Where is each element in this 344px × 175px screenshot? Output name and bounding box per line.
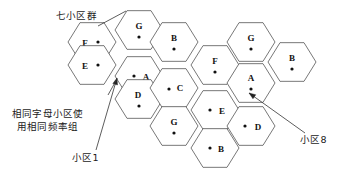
hex-cell-g[interactable]: G: [227, 23, 275, 62]
base-station-dot: [137, 104, 140, 107]
base-station-dot: [172, 131, 175, 134]
base-station-dot: [96, 63, 99, 66]
hex-cell-letter: C: [177, 83, 184, 93]
hexagon-cell-layer: FEGADBCGFEBGADB: [68, 11, 316, 168]
hex-cell-letter: E: [219, 106, 225, 116]
hex-cell-g[interactable]: G: [150, 107, 198, 146]
base-station-dot: [249, 47, 252, 50]
cell1-leader-line-a: [96, 78, 117, 150]
hex-cell-letter: G: [247, 33, 254, 43]
frequency-reuse-note: 相同字母小区使 用相同频率组: [12, 108, 83, 134]
base-station-dot: [208, 108, 211, 111]
cluster-annotation-label: 七小区群: [56, 10, 97, 23]
hex-cell-letter: B: [171, 33, 177, 43]
base-station-dot: [290, 67, 293, 70]
hex-cell-letter: A: [248, 73, 255, 83]
hexagon-grid-diagram: FEGADBCGFEBGADB: [0, 0, 344, 175]
base-station-dot: [172, 47, 175, 50]
hex-cell-letter: B: [289, 53, 295, 63]
base-station-dot: [243, 124, 246, 127]
cell-8-annotation-label: 小区8: [300, 134, 327, 147]
hex-cell-letter: G: [135, 21, 142, 31]
hex-cell-letter: F: [212, 56, 218, 66]
hex-cell-letter: D: [135, 90, 142, 100]
frequency-reuse-note-line1: 相同字母小区使: [12, 108, 83, 121]
frequency-reuse-note-line2: 用相同频率组: [12, 121, 83, 134]
hex-cell-letter: D: [255, 122, 262, 132]
hex-cell-b[interactable]: B: [268, 43, 316, 82]
base-station-dot: [96, 40, 99, 43]
base-station-dot: [132, 74, 135, 77]
base-station-dot: [167, 87, 170, 90]
base-station-dot: [208, 146, 211, 149]
cell-1-annotation-label: 小区1: [72, 152, 99, 165]
hex-cell-letter: E: [82, 61, 88, 71]
hex-cell-letter: G: [170, 117, 177, 127]
base-station-dot: [249, 87, 252, 90]
base-station-dot: [137, 35, 140, 38]
cellular-reuse-diagram-page: FEGADBCGFEBGADB 七小区群 相同字母小区使 用相同频率组 小区1 …: [0, 0, 344, 175]
base-station-dot: [213, 70, 216, 73]
hex-cell-letter: B: [218, 144, 224, 154]
